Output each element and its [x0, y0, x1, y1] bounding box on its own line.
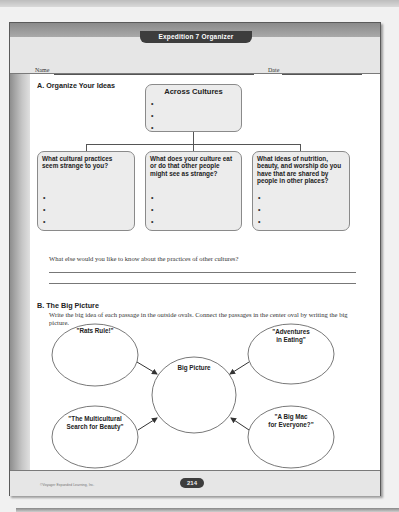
oval-label: "The Multicultural	[68, 415, 122, 422]
big-picture-diagram: "Rats Rule!" "Adventures in Eating" "The…	[0, 0, 399, 512]
arrow-icon	[137, 362, 157, 374]
oval-label: in Eating"	[276, 336, 306, 344]
arrow-icon	[230, 362, 249, 374]
oval-label: "A Big Mac	[274, 413, 308, 421]
arrow-icon	[231, 418, 249, 430]
center-label: Big Picture	[177, 364, 211, 372]
next-page-edge	[16, 508, 399, 512]
arrow-icon	[138, 418, 157, 430]
oval-label: "Rats Rule!"	[76, 327, 113, 334]
oval-label: for Everyone?"	[268, 421, 313, 429]
oval-label: Search for Beauty"	[67, 423, 124, 431]
oval-label: "Adventures	[272, 328, 310, 335]
